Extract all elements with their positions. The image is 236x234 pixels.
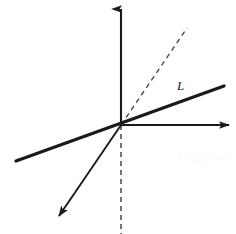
figure-canvas: L Pearson <box>0 0 236 234</box>
line-label-L: L <box>177 79 184 92</box>
ray-solid <box>59 125 121 216</box>
watermark-text: Pearson <box>179 150 234 165</box>
diagram-svg <box>0 0 236 234</box>
